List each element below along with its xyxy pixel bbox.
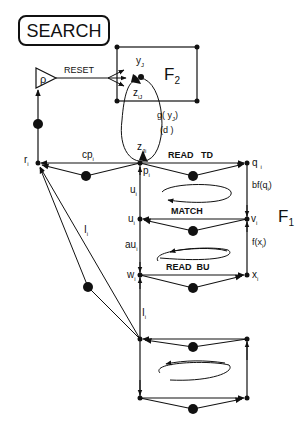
input-interneuron bbox=[83, 282, 93, 292]
search-title-box: SEARCH bbox=[19, 16, 109, 45]
q-label: qi bbox=[252, 157, 262, 170]
au-label: aui bbox=[125, 239, 137, 252]
cp-label: cpi bbox=[82, 149, 94, 162]
d-label: (d ) bbox=[160, 125, 174, 135]
bf-q-label: bf(qi) bbox=[252, 180, 272, 192]
match-label: MATCH bbox=[171, 206, 203, 216]
v-label: vi bbox=[251, 213, 257, 226]
r-node bbox=[36, 161, 41, 166]
f2-label: F2 bbox=[164, 65, 180, 86]
read-td-label: READ TD bbox=[168, 150, 214, 160]
ziJ-label: ziJ bbox=[133, 87, 142, 100]
rho-label: ρ bbox=[40, 73, 46, 85]
read-bu-interneuron bbox=[188, 283, 198, 293]
read-td-interneuron bbox=[188, 171, 198, 181]
x-label: xi bbox=[252, 269, 258, 282]
w-label: wi bbox=[126, 269, 136, 282]
I-upper-label: Ii bbox=[84, 224, 88, 237]
match-interneuron bbox=[188, 226, 198, 236]
p-label: pi bbox=[143, 165, 150, 178]
cp-interneuron bbox=[81, 171, 91, 181]
f1-label: F1 bbox=[278, 207, 294, 228]
I-lower-label: Ii bbox=[142, 307, 146, 320]
input-to-r-line-1 bbox=[40, 167, 140, 339]
r-label: ri bbox=[24, 154, 29, 167]
search-title: SEARCH bbox=[26, 21, 101, 41]
reset-label: RESET bbox=[64, 65, 95, 75]
read-bu-label: READ BU bbox=[166, 262, 210, 272]
yJ-label: yJ bbox=[136, 55, 144, 68]
art-network-diagram: SEARCH F2 ρ RESET yJ ziJ zJi g( yJ) (d )… bbox=[0, 0, 302, 430]
g-yJ-label: g( yJ) bbox=[157, 110, 178, 122]
zJi-label: zJi bbox=[137, 141, 146, 154]
u-top-label: ui bbox=[130, 184, 137, 197]
u-label: ui bbox=[128, 213, 135, 226]
f1-nodes bbox=[138, 161, 250, 401]
f-x-label: f(xi) bbox=[252, 237, 266, 249]
bottom-bottom-interneuron bbox=[188, 404, 198, 414]
bottom-top-interneuron bbox=[188, 342, 198, 352]
cp-inhib-path bbox=[42, 163, 140, 176]
vigilance-node: ρ bbox=[36, 68, 56, 88]
r-to-reset-interneuron bbox=[33, 119, 43, 129]
